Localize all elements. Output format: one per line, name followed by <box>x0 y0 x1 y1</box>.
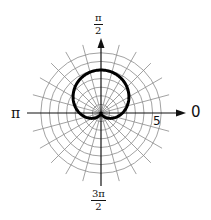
half-pi-numerator: π <box>94 13 103 25</box>
label-pi: π <box>11 106 20 120</box>
radial-label-five: 5 <box>153 115 161 127</box>
polar-plot <box>0 0 211 220</box>
arrow-right-icon <box>176 110 186 117</box>
three-half-pi-denominator: 2 <box>95 201 101 212</box>
arrow-up-icon <box>98 38 105 48</box>
polar-axes <box>27 38 186 186</box>
label-three-half-pi: 3π 2 <box>91 189 106 212</box>
half-pi-denominator: 2 <box>95 25 101 36</box>
label-half-pi: π 2 <box>94 13 103 36</box>
three-half-pi-numerator: 3π <box>91 189 106 201</box>
label-zero: 0 <box>191 105 201 120</box>
